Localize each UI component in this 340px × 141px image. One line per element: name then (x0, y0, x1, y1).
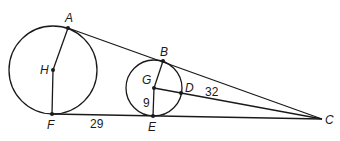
point-f (50, 112, 54, 116)
point-h (51, 68, 55, 72)
label-h: H (40, 63, 49, 77)
radius-ge (153, 88, 154, 116)
label-a: A (64, 11, 73, 25)
measure-fe: 29 (90, 117, 104, 131)
measure-dc: 32 (205, 85, 219, 99)
point-d (179, 91, 183, 95)
radius-ha (53, 28, 68, 70)
label-d: D (185, 81, 194, 95)
segment-ac (68, 28, 322, 119)
point-g (152, 86, 156, 90)
radius-hf (52, 70, 53, 114)
label-g: G (142, 73, 151, 87)
point-b (161, 59, 165, 63)
measure-ge: 9 (143, 96, 150, 110)
point-e (151, 114, 155, 118)
point-a (66, 26, 70, 30)
radius-gb (154, 61, 163, 88)
label-e: E (148, 120, 157, 134)
geometry-diagram: A H F B G D E C 29 9 32 (0, 0, 340, 141)
label-b: B (160, 45, 168, 59)
label-f: F (47, 118, 55, 132)
label-c: C (325, 113, 334, 127)
